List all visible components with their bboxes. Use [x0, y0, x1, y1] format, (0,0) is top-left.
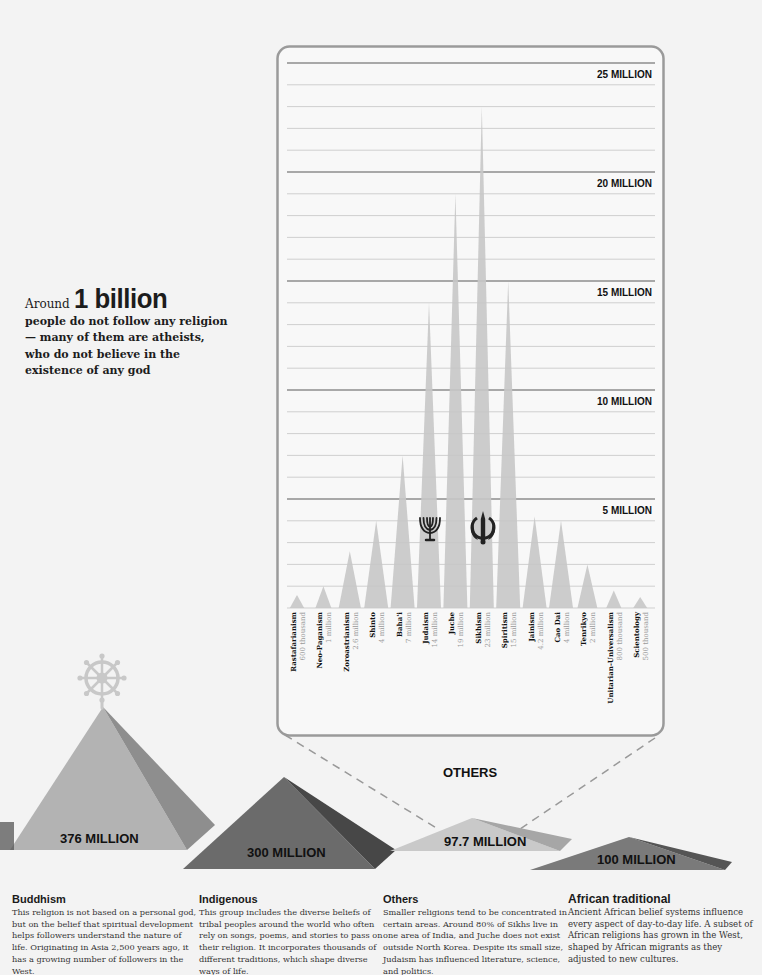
callout-body: people do not follow any religion— many … [25, 314, 230, 380]
y-axis-label: 15 MILLION [597, 287, 652, 298]
infographic: 5 MILLION10 MILLION15 MILLION20 MILLION2… [0, 0, 762, 975]
svg-text:Judaism: Judaism [421, 611, 430, 644]
others-caption: OTHERS [443, 765, 498, 780]
callout-lead: Around [25, 297, 70, 311]
svg-text:14 million: 14 million [431, 612, 439, 648]
edge-shadow [0, 822, 14, 850]
column-text: This religion is not based on a personal… [12, 907, 197, 975]
svg-text:Spiritism: Spiritism [500, 611, 509, 648]
svg-text:15 million: 15 million [510, 612, 518, 648]
svg-text:Sikhism: Sikhism [474, 611, 483, 643]
svg-text:600 thousand: 600 thousand [299, 611, 307, 660]
pyramid-label-buddhism: 376 MILLION [60, 831, 139, 846]
svg-text:4 million: 4 million [378, 612, 386, 643]
atheism-callout: Around 1 billion people do not follow an… [25, 285, 265, 380]
svg-text:4 million: 4 million [563, 612, 571, 643]
column-text: This group includes the diverse beliefs … [199, 907, 384, 975]
svg-text:19 million: 19 million [457, 612, 465, 648]
svg-text:2 million: 2 million [589, 612, 597, 643]
y-axis-label: 25 MILLION [597, 69, 652, 80]
svg-text:Cao Dai: Cao Dai [553, 612, 562, 643]
column-indigenous: Indigenous This group includes the diver… [199, 893, 384, 975]
column-text: Ancient African belief systems influence… [568, 907, 753, 966]
pyramid-label-african-traditional: 100 MILLION [597, 852, 676, 867]
svg-text:Neo-Paganism: Neo-Paganism [315, 611, 324, 668]
svg-text:Juche: Juche [447, 611, 456, 635]
svg-text:23 million: 23 million [484, 612, 492, 648]
svg-text:4.2 million: 4.2 million [537, 612, 545, 650]
pyramid-label-indigenous: 300 MILLION [247, 845, 326, 860]
svg-text:Rastafarianism: Rastafarianism [289, 611, 298, 671]
dharma-wheel-icon [77, 653, 126, 708]
y-axis-label: 20 MILLION [597, 178, 652, 189]
svg-text:Tenrikyo: Tenrikyo [579, 612, 588, 646]
svg-text:Jainism: Jainism [527, 611, 536, 642]
connector-line-right [520, 738, 655, 829]
column-title: African traditional [568, 893, 753, 906]
svg-text:500 thousand: 500 thousand [642, 611, 650, 660]
column-title: Indigenous [199, 893, 384, 906]
callout-big-number: 1 billion [74, 285, 167, 313]
svg-text:800 thousand: 800 thousand [616, 611, 624, 660]
column-text: Smaller religions tend to be concentrate… [383, 907, 568, 975]
svg-text:Unitarian-Universalism: Unitarian-Universalism [606, 611, 615, 703]
column-buddhism: Buddhism This religion is not based on a… [12, 893, 197, 975]
svg-text:1 million: 1 million [325, 612, 333, 643]
pyramid-buddhism [10, 707, 215, 850]
svg-text:Shinto: Shinto [368, 612, 377, 638]
column-african-traditional: African traditional Ancient African beli… [568, 893, 753, 966]
y-axis-label: 5 MILLION [603, 505, 652, 516]
column-title: Others [383, 893, 568, 906]
chart-canvas: 5 MILLION10 MILLION15 MILLION20 MILLION2… [0, 0, 762, 975]
column-others: Others Smaller religions tend to be conc… [383, 893, 568, 975]
y-axis-label: 10 MILLION [597, 396, 652, 407]
column-title: Buddhism [12, 893, 197, 906]
svg-text:7 million: 7 million [405, 612, 413, 643]
svg-text:Baha'i: Baha'i [395, 612, 404, 637]
svg-text:Scientology: Scientology [632, 611, 641, 658]
svg-text:2.6 million: 2.6 million [352, 612, 360, 650]
pyramid-label-others: 97.7 MILLION [444, 834, 526, 849]
svg-text:Zoroastrianism: Zoroastrianism [342, 611, 351, 671]
